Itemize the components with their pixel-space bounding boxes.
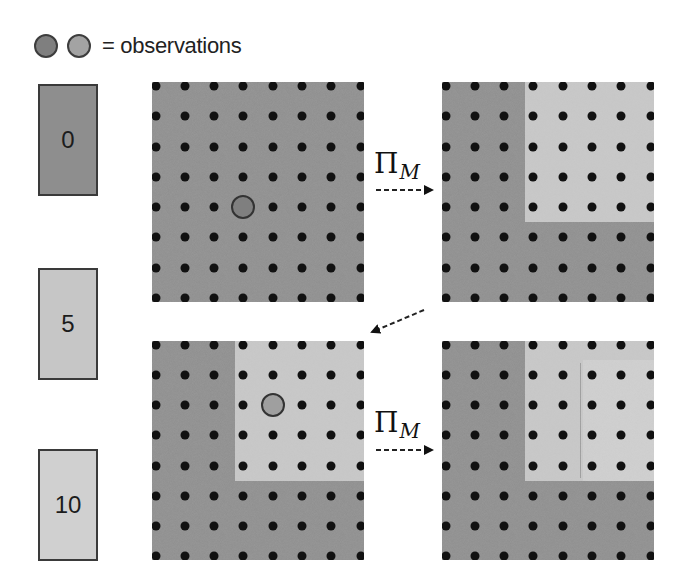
observation-marker [231, 195, 255, 219]
observation-marker [261, 393, 285, 417]
projection-arrow-top-icon [0, 0, 688, 584]
